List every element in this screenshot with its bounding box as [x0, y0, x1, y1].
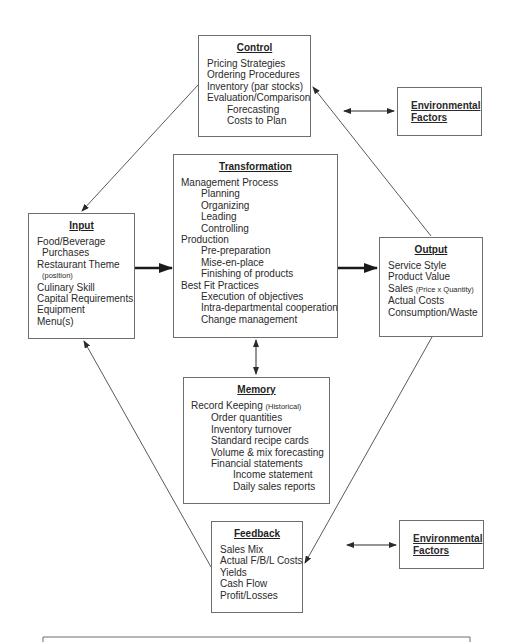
- transformation-item: Production: [181, 234, 337, 245]
- memory-title: Memory: [184, 384, 329, 395]
- memory-items: Record Keeping (Historical) Order quanti…: [184, 400, 329, 492]
- transformation-item: Finishing of products: [181, 268, 337, 279]
- output-items: Service Style Product Value Sales (Price…: [380, 260, 482, 318]
- control-item: Inventory (par stocks): [207, 81, 310, 92]
- transformation-item: Intra-departmental cooperation: [181, 302, 337, 313]
- control-box: Control Pricing Strategies Ordering Proc…: [198, 35, 311, 137]
- bottom-box-edge: [43, 637, 470, 642]
- input-item: Menu(s): [37, 316, 134, 327]
- input-title: Input: [29, 220, 134, 231]
- output-item: Sales (Price x Quantity): [388, 283, 482, 295]
- feedback-item: Yields: [220, 567, 302, 578]
- memory-item: Daily sales reports: [191, 481, 329, 492]
- memory-item: Record Keeping (Historical): [191, 400, 329, 412]
- input-items: Food/Beverage Purchases Restaurant Theme…: [29, 236, 134, 327]
- input-item: (position): [37, 270, 134, 281]
- feedback-item: Actual F/B/L Costs: [220, 555, 302, 566]
- feedback-box: Feedback Sales Mix Actual F/B/L Costs Yi…: [211, 521, 303, 613]
- transformation-item: Management Process: [181, 177, 337, 188]
- output-item: Service Style: [388, 260, 482, 271]
- output-item: Consumption/Waste: [388, 307, 482, 318]
- output-item: Actual Costs: [388, 295, 482, 306]
- input-item: Purchases: [37, 247, 134, 258]
- transformation-item: Change management: [181, 314, 337, 325]
- memory-item: Inventory turnover: [191, 424, 329, 435]
- transformation-item: Pre-preparation: [181, 245, 337, 256]
- memory-item: Volume & mix forecasting: [191, 447, 329, 458]
- env-bottom-line1: Environmental: [413, 533, 483, 545]
- input-item: Equipment: [37, 304, 134, 315]
- memory-item: Standard recipe cards: [191, 435, 329, 446]
- input-box: Input Food/Beverage Purchases Restaurant…: [28, 213, 135, 339]
- environmental-factors-top-box: Environmental Factors: [397, 87, 482, 136]
- output-box: Output Service Style Product Value Sales…: [379, 237, 483, 337]
- control-item: Pricing Strategies: [207, 58, 310, 69]
- transformation-item: Organizing: [181, 200, 337, 211]
- feedback-title: Feedback: [212, 528, 302, 539]
- memory-item: Income statement: [191, 469, 329, 480]
- memory-box: Memory Record Keeping (Historical) Order…: [183, 377, 330, 504]
- input-item: Restaurant Theme: [37, 259, 134, 270]
- env-top-line1: Environmental: [411, 100, 481, 112]
- memory-item: Financial statements: [191, 458, 329, 469]
- control-item: Evaluation/Comparison: [207, 92, 310, 103]
- input-item: Culinary Skill: [37, 282, 134, 293]
- transformation-box: Transformation Management Process Planni…: [173, 154, 338, 338]
- input-item: Food/Beverage: [37, 236, 134, 247]
- feedback-items: Sales Mix Actual F/B/L Costs Yields Cash…: [212, 544, 302, 601]
- memory-item: Order quantities: [191, 412, 329, 423]
- transformation-item: Best Fit Practices: [181, 280, 337, 291]
- environmental-factors-bottom-box: Environmental Factors: [399, 520, 484, 569]
- input-item: Capital Requirements: [37, 293, 134, 304]
- output-item: Product Value: [388, 271, 482, 282]
- env-bottom-line2: Factors: [413, 545, 483, 557]
- transformation-title: Transformation: [174, 161, 337, 172]
- output-title: Output: [380, 244, 482, 255]
- transformation-item: Mise-en-place: [181, 257, 337, 268]
- transformation-item: Planning: [181, 188, 337, 199]
- feedback-item: Profit/Losses: [220, 590, 302, 601]
- control-item: Ordering Procedures: [207, 69, 310, 80]
- control-title: Control: [199, 42, 310, 53]
- control-items: Pricing Strategies Ordering Procedures I…: [199, 58, 310, 126]
- feedback-item: Sales Mix: [220, 544, 302, 555]
- transformation-item: Leading: [181, 211, 337, 222]
- env-top-line2: Factors: [411, 112, 481, 124]
- feedback-item: Cash Flow: [220, 578, 302, 589]
- transformation-item: Execution of objectives: [181, 291, 337, 302]
- control-item: Forecasting: [207, 104, 310, 115]
- transformation-items: Management Process Planning Organizing L…: [174, 177, 337, 325]
- control-item: Costs to Plan: [207, 115, 310, 126]
- transformation-item: Controlling: [181, 223, 337, 234]
